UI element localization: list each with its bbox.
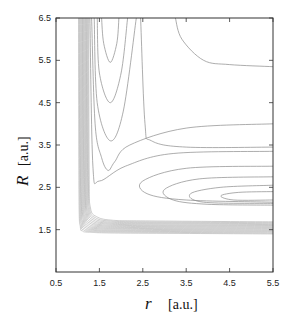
x-axis-label: r [a.u.]: [145, 294, 198, 313]
y-tick-label: 6.5: [38, 13, 51, 23]
contour-lines: [79, 18, 273, 234]
x-tick-label: 1.5: [93, 278, 106, 288]
y-tick-label: 3.5: [38, 140, 51, 150]
x-tick-label: 4.5: [223, 278, 236, 288]
wall-contour-line: [86, 18, 273, 226]
wall-contour-line: [80, 18, 273, 232]
y-tick-label: 2.5: [38, 182, 51, 192]
wall-contour-line: [86, 18, 273, 225]
x-tick-label: 2.5: [137, 278, 150, 288]
y-axis-label: R [a.u.]: [13, 136, 32, 187]
contour-line: [102, 18, 119, 62]
wall-contour-line: [82, 18, 273, 230]
wall-contour-line: [87, 18, 273, 224]
wall-contour-line: [83, 18, 273, 228]
y-tick-label: 4.5: [38, 98, 51, 108]
x-axis-unit: [a.u.]: [168, 297, 198, 312]
y-tick-label: 1.5: [38, 225, 51, 235]
x-tick-label: 5.5: [267, 278, 280, 288]
contour-line: [90, 18, 273, 184]
wall-contour-line: [84, 18, 273, 227]
contour-line: [175, 18, 273, 67]
wall-contour-line: [85, 18, 273, 226]
x-tick-label: 3.5: [180, 278, 193, 288]
y-tick-label: 5.5: [38, 55, 51, 65]
wall-contour-line: [89, 18, 273, 222]
x-tick-label: 0.5: [50, 278, 63, 288]
contour-chart: 0.51.52.53.54.55.5 1.52.53.54.55.56.5 r …: [0, 0, 292, 328]
contour-line: [139, 166, 273, 202]
y-axis-symbol: R: [13, 175, 32, 187]
contour-line: [141, 18, 273, 148]
contour-line: [221, 192, 273, 201]
x-axis-symbol: r: [145, 294, 152, 313]
wall-contour-line: [83, 18, 274, 229]
y-axis-unit: [a.u.]: [16, 136, 31, 166]
